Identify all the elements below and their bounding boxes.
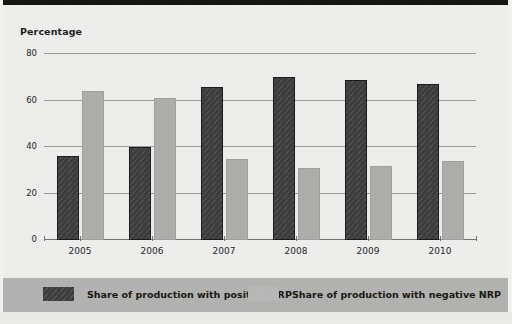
bar-2006-negative-nrp [154,98,176,240]
bar-2007-positive-nrp [201,87,223,240]
gridline-60: 60 [44,100,476,101]
gridline-0: 0 [44,239,476,240]
x-axis-label-2005: 2005 [69,246,92,256]
bar-2008-positive-nrp [273,77,295,240]
legend-swatch-positive-icon [43,287,74,301]
plot-area: 020406080 [44,54,476,240]
x-axis-labels: 200520062007200820092010 [44,246,476,262]
bar-2010-positive-nrp [417,84,439,240]
bar-2008-negative-nrp [298,168,320,240]
chart-title: Percentage [20,26,82,37]
x-tick-2010 [440,236,441,241]
x-tick-origin [44,236,45,241]
gridline-80: 80 [44,53,476,54]
bar-2006-positive-nrp [129,147,151,240]
gridline-20: 20 [44,193,476,194]
y-tick-label-80: 80 [26,48,37,58]
y-tick-label-0: 0 [32,234,37,244]
x-axis-label-2007: 2007 [213,246,236,256]
bar-2005-positive-nrp [57,156,79,240]
x-tick-end [476,236,477,241]
x-tick-2005 [80,236,81,241]
y-tick-label-40: 40 [26,141,37,151]
gridline-40: 40 [44,146,476,147]
x-tick-2006 [152,236,153,241]
x-axis-label-2010: 2010 [429,246,452,256]
bar-2007-negative-nrp [226,159,248,240]
legend-swatch-negative-icon [248,287,279,301]
page-bottom-margin [0,312,512,324]
bar-2010-negative-nrp [442,161,464,240]
x-axis-label-2009: 2009 [357,246,380,256]
chart-legend: Share of production with positive NRP Sh… [3,278,508,312]
x-tick-2009 [368,236,369,241]
bar-2005-negative-nrp [82,91,104,240]
x-tick-2007 [224,236,225,241]
x-axis-label-2008: 2008 [285,246,308,256]
legend-label-negative: Share of production with negative NRP [292,289,501,300]
top-border-rule [0,0,512,5]
y-tick-label-60: 60 [26,95,37,105]
right-page-edge [508,0,512,324]
left-page-edge [0,0,3,324]
chart-screenshot: Percentage 020406080 2005200620072008200… [0,0,512,324]
legend-entry-negative: Share of production with negative NRP [248,286,501,302]
y-tick-label-20: 20 [26,188,37,198]
x-axis-label-2006: 2006 [141,246,164,256]
x-tick-2008 [296,236,297,241]
bar-2009-negative-nrp [370,166,392,240]
bar-2009-positive-nrp [345,80,367,240]
